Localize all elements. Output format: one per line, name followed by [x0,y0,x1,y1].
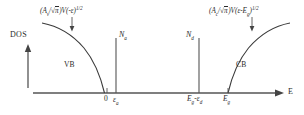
conduction-formula-arg: ε-E [237,7,247,15]
valence-formula-pointer [70,17,75,32]
tick-label-epsilon-a: εa [113,96,119,106]
tick-label-origin: 0 [104,95,108,103]
conduction-band-label: CB [236,61,246,69]
conduction-band-formula: (Ac/√π)V(ε-Eg)1/2 [209,6,259,17]
conduction-formula-exponent: 1/2 [252,5,259,11]
valence-pointer-arrowhead [70,26,75,32]
energy-axis-label: E [288,88,293,96]
tick-epsilon-a-subscript: a [116,100,119,106]
valence-formula-exponent: 1/2 [76,5,83,11]
conduction-formula-pointer [250,17,255,32]
diagram-canvas [0,0,304,115]
conduction-pointer-arrowhead [250,26,255,32]
tick-label-eg-minus-epsilon-d: Eg-εd [187,95,202,105]
donor-level-label: Nd [186,31,194,41]
dos-axis-arrow [25,44,31,88]
dos-band-diagram: DOS E (Av/√π)V(-ε)1/2 (Ac/√π)V(ε-Eg)1/2 … [0,0,304,115]
conduction-band-dos-curve [228,23,290,93]
acceptor-level-label: Na [119,31,127,41]
dos-axis-label: DOS [10,31,27,39]
acceptor-level-subscript: a [124,35,127,41]
valence-band-dos-curve [42,23,105,93]
dos-axis-arrowhead [25,44,31,52]
tick-epsilon-d-subscript: d [200,99,203,105]
donor-level-subscript: d [191,35,194,41]
energy-axis [33,90,284,97]
tick-eg-only-subscript: g [228,99,231,105]
valence-band-label: VB [64,61,75,69]
valence-band-formula: (Av/√π)V(-ε)1/2 [40,6,83,17]
energy-axis-arrowhead [275,90,284,97]
tick-label-eg: Eg [223,95,230,105]
